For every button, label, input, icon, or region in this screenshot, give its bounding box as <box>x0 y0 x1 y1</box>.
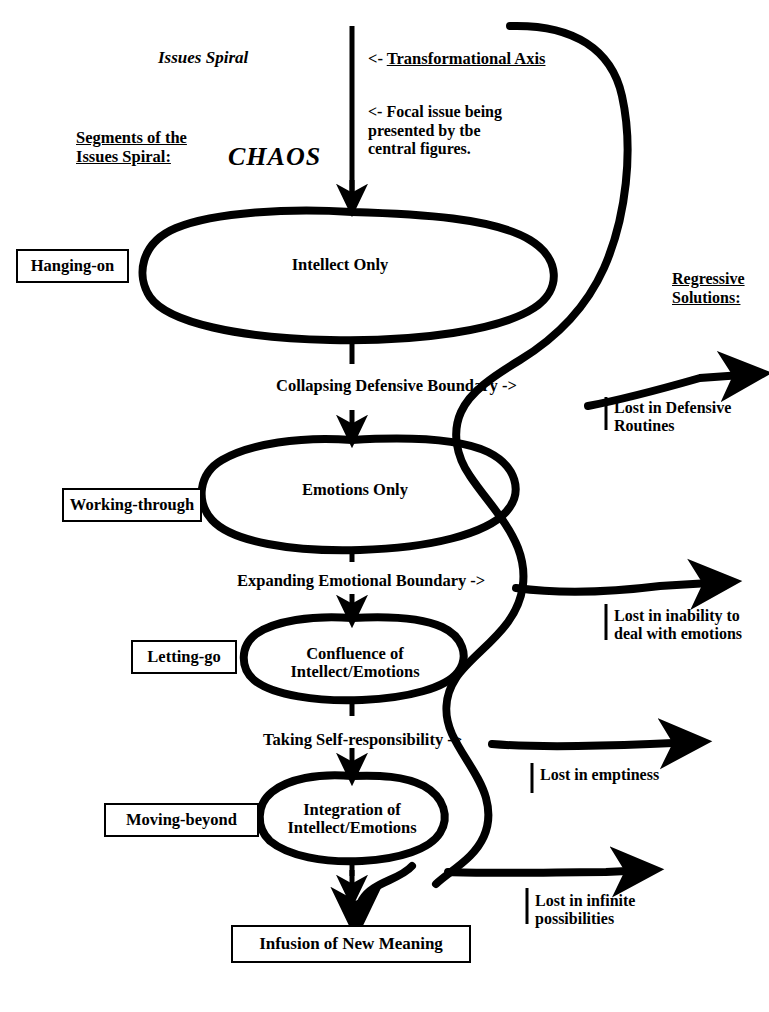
chaos-label: CHAOS <box>228 142 321 171</box>
diagram-canvas: Issues Spiral Segments of the Issues Spi… <box>0 0 769 1012</box>
segment-box-working-through[interactable]: Working-through <box>62 488 202 522</box>
node-label-intellect-only: Intellect Only <box>240 256 440 274</box>
node-ellipse-intellect-only <box>143 211 554 341</box>
transition-label-collapsing-defensive-boundary: Collapsing Defensive Boundary -> <box>276 376 517 396</box>
outcome-label-lost-in-defensive-routines: Lost in Defensive Routines <box>604 399 731 436</box>
regressive-arrow-4 <box>448 870 648 873</box>
issues-spiral-title: Issues Spiral <box>158 48 248 67</box>
transformational-axis-annotation: <- Transformational Axis <box>368 50 545 68</box>
axis-arrow-glyph: <- <box>368 49 387 68</box>
regressive-arrow-2 <box>516 582 726 592</box>
connector-arrow-final <box>356 866 412 924</box>
final-outcome-box-infusion-of-new-meaning[interactable]: Infusion of New Meaning <box>231 925 471 963</box>
outcome-label-lost-in-infinite-possibilities: Lost in infinite possibilities <box>525 892 635 929</box>
node-label-emotions-only: Emotions Only <box>260 481 450 499</box>
segments-of-issues-spiral-heading: Segments of the Issues Spiral: <box>76 128 187 167</box>
segment-box-letting-go[interactable]: Letting-go <box>131 640 237 674</box>
outcome-label-lost-in-inability-to-deal-with-emotions: Lost in inability to deal with emotions <box>604 607 742 644</box>
node-label-integration: Integration of Intellect/Emotions <box>272 801 432 838</box>
transition-label-taking-self-responsibility: Taking Self-responsibility -> <box>263 730 462 750</box>
regressive-solutions-heading: Regressive Solutions: <box>672 270 745 308</box>
focal-issue-annotation: <- Focal issue being presented by tbe ce… <box>368 103 502 159</box>
axis-annotation-text: Transformational Axis <box>387 49 546 68</box>
segment-box-moving-beyond[interactable]: Moving-beyond <box>104 803 259 837</box>
outcome-label-lost-in-emptiness: Lost in emptiness <box>530 766 659 784</box>
transition-label-expanding-emotional-boundary: Expanding Emotional Boundary -> <box>237 571 485 591</box>
regressive-arrow-3 <box>492 742 696 746</box>
node-label-confluence: Confluence of Intellect/Emotions <box>270 645 440 682</box>
segment-box-hanging-on[interactable]: Hanging-on <box>16 249 129 283</box>
